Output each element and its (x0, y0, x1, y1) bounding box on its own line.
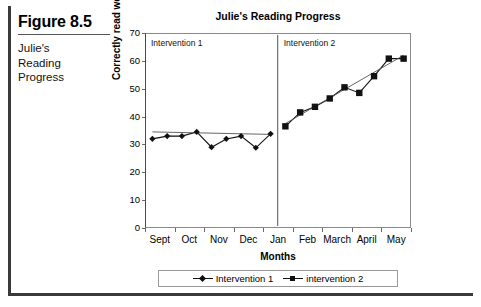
data-point-square (371, 73, 377, 79)
data-point-diamond (223, 136, 229, 142)
legend-label-intervention-1: Intervention 1 (216, 273, 274, 284)
data-point-diamond (149, 136, 155, 142)
data-point-diamond (164, 133, 170, 139)
legend-item-intervention-1: Intervention 1 (193, 273, 274, 284)
data-point-square (356, 90, 362, 96)
chart-legend: Intervention 1 intervention 2 (158, 270, 398, 287)
legend-label-intervention-2: intervention 2 (306, 273, 363, 284)
figure-page: Figure 8.5 Julie's Reading Progress Juli… (0, 0, 481, 307)
figure-description: Julie's Reading Progress (18, 41, 114, 85)
page-left-rule (8, 6, 11, 296)
data-series-layer (118, 8, 438, 248)
data-point-square (297, 109, 303, 115)
data-point-square (400, 55, 406, 61)
caption-divider (18, 34, 110, 35)
plot-outer: Correctly read words 010203040506070 Sep… (118, 8, 438, 248)
figure-description-line-3: Progress (18, 70, 114, 85)
x-axis-title: Months (145, 251, 411, 262)
data-point-square (327, 95, 333, 101)
series-line-2 (285, 59, 403, 127)
data-point-diamond (179, 133, 185, 139)
diamond-marker-icon (193, 278, 213, 279)
legend-item-intervention-2: intervention 2 (283, 273, 363, 284)
data-point-square (312, 104, 318, 110)
square-marker-icon (283, 278, 303, 279)
data-point-square (386, 55, 392, 61)
trend-line-1 (152, 132, 270, 135)
figure-number: Figure 8.5 (18, 12, 114, 31)
chart-container: Julie's Reading Progress Correctly read … (118, 8, 448, 300)
figure-description-line-1: Julie's (18, 41, 114, 56)
data-point-square (282, 123, 288, 129)
data-point-square (341, 84, 347, 90)
figure-description-line-2: Reading (18, 56, 114, 71)
figure-caption-block: Figure 8.5 Julie's Reading Progress (18, 12, 114, 85)
